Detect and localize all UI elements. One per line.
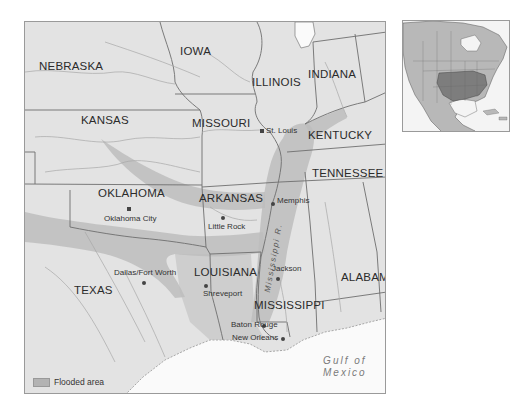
state-label-alabama: ALABAMA xyxy=(341,272,386,284)
gulf-label-line1: Gulf of xyxy=(323,355,367,367)
state-label-illinois: ILLINOIS xyxy=(252,77,301,89)
state-label-louisiana: LOUISIANA xyxy=(194,267,257,279)
city-label-memphis: Memphis xyxy=(277,197,309,205)
city-marker-dallas-fort-worth xyxy=(142,281,146,285)
main-map: NEBRASKA IOWA ILLINOIS INDIANA KANSAS MI… xyxy=(24,21,386,394)
city-label-shreveport: Shreveport xyxy=(203,290,242,298)
state-label-iowa: IOWA xyxy=(180,46,211,58)
state-label-nebraska: NEBRASKA xyxy=(39,61,103,73)
city-label-baton-rouge: Baton Rouge xyxy=(231,321,278,329)
legend: Flooded area xyxy=(33,377,104,387)
city-marker-little-rock xyxy=(221,216,225,220)
city-marker-memphis xyxy=(271,202,275,206)
legend-label: Flooded area xyxy=(54,377,104,387)
state-label-oklahoma: OKLAHOMA xyxy=(98,188,165,200)
state-label-kentucky: KENTUCKY xyxy=(308,130,372,142)
state-label-kansas: KANSAS xyxy=(81,115,129,127)
city-marker-new-orleans xyxy=(281,337,285,341)
state-label-tennessee: TENNESSEE xyxy=(312,168,383,180)
city-label-dallas-fort-worth: Dallas/Fort Worth xyxy=(114,269,176,277)
inset-locator-map xyxy=(402,20,510,132)
state-label-indiana: INDIANA xyxy=(308,69,356,81)
city-label-st-louis: St. Louis xyxy=(266,127,297,135)
water-label-gulf-of-mexico: Gulf of Mexico xyxy=(323,355,367,378)
city-marker-oklahoma-city xyxy=(127,207,131,211)
state-label-mississippi: MISSISSIPPI xyxy=(254,300,325,312)
state-label-texas: TEXAS xyxy=(74,285,113,297)
city-label-new-orleans: New Orleans xyxy=(232,334,278,342)
city-marker-shreveport xyxy=(204,284,208,288)
city-label-little-rock: Little Rock xyxy=(208,223,245,231)
city-marker-jackson xyxy=(276,277,280,281)
city-marker-st-louis xyxy=(260,129,264,133)
city-label-oklahoma-city: Oklahoma City xyxy=(104,215,156,223)
gulf-label-line2: Mexico xyxy=(323,367,367,379)
legend-swatch-flooded xyxy=(33,378,50,387)
inset-canvas xyxy=(403,21,510,132)
state-label-missouri: MISSOURI xyxy=(192,118,250,130)
state-label-arkansas: ARKANSAS xyxy=(199,193,263,205)
